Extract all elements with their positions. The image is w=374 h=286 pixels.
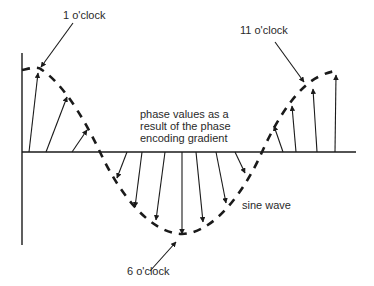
- phase-encoding-diagram: 1 o'clock 11 o'clock phase values as a r…: [0, 0, 374, 286]
- phase-vector-arrow-down: [117, 152, 127, 178]
- phase-vector-arrow-down: [235, 152, 245, 173]
- phase-vector-arrow-down: [135, 152, 142, 207]
- caption-phase-values: phase values as a result of the phase en…: [140, 108, 231, 144]
- phase-vector-arrow-up: [29, 73, 38, 152]
- label-6-oclock: 6 o'clock: [127, 265, 169, 277]
- callout-pointers: [41, 23, 304, 271]
- axes: [22, 53, 356, 245]
- eleven-oclock-pointer-arrow: [275, 42, 304, 82]
- phase-vector-arrow-up: [72, 130, 87, 152]
- phase-vector-arrow-down: [156, 152, 165, 220]
- label-1-oclock: 1 o'clock: [63, 9, 105, 21]
- phase-vector-arrow-up: [46, 97, 67, 152]
- label-sine-wave: sine wave: [242, 199, 291, 211]
- phase-vector-arrow-down: [216, 152, 226, 203]
- phase-vector-arrow-up: [335, 75, 336, 152]
- label-11-oclock: 11 o'clock: [240, 24, 288, 36]
- phase-vector-arrow-up: [292, 106, 296, 152]
- phase-vector-arrow-down: [196, 152, 203, 222]
- one-oclock-pointer-arrow: [41, 23, 73, 67]
- phase-vector-arrow-up: [313, 89, 317, 152]
- phase-vector-arrow-up: [274, 126, 283, 152]
